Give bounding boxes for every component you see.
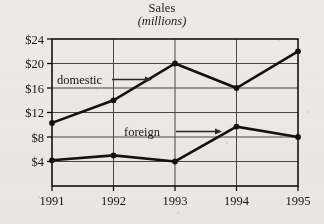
annotation-domestic-label: domestic — [57, 73, 103, 87]
data-point-domestic-1995 — [295, 48, 301, 54]
data-point-foreign-1993 — [172, 159, 178, 165]
sales-line-chart: $24 $20 $16 $12 $8 $4 1991 1992 1993 199… — [0, 0, 324, 224]
y-axis-label-16: $16 — [25, 82, 44, 96]
data-point-foreign-1994 — [234, 124, 240, 130]
x-axis-label-1992: 1992 — [101, 194, 126, 208]
x-axis-labels: 1991 1992 1993 1994 1995 — [40, 194, 311, 208]
x-axis-label-1991: 1991 — [40, 194, 65, 208]
annotation-foreign: foreign — [124, 125, 222, 139]
y-axis-label-24: $24 — [25, 33, 45, 47]
annotation-foreign-label: foreign — [124, 125, 161, 139]
x-axis-label-1993: 1993 — [163, 194, 188, 208]
data-point-foreign-1991 — [49, 157, 55, 163]
data-point-domestic-1993 — [172, 61, 178, 67]
arrow-right-icon — [215, 129, 222, 135]
x-axis-label-1995: 1995 — [286, 194, 311, 208]
data-point-domestic-1994 — [234, 85, 240, 91]
data-point-domestic-1992 — [111, 97, 117, 103]
y-axis-labels: $24 $20 $16 $12 $8 $4 — [25, 33, 45, 170]
y-axis-label-4: $4 — [32, 155, 45, 169]
y-axis-label-8: $8 — [32, 131, 45, 145]
data-point-foreign-1992 — [111, 153, 117, 159]
data-point-foreign-1995 — [295, 134, 301, 140]
y-axis-label-20: $20 — [25, 57, 44, 71]
x-axis-label-1994: 1994 — [224, 194, 250, 208]
y-axis-label-12: $12 — [25, 106, 44, 120]
data-point-domestic-1991 — [49, 120, 55, 126]
chart-page: Sales (millions) — [0, 0, 324, 224]
